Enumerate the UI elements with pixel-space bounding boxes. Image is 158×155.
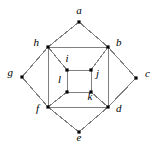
graph-edge — [48, 92, 67, 107]
graph-vertex-l — [65, 90, 68, 93]
graph-vertex-b — [106, 45, 109, 48]
graph-edge — [79, 107, 108, 132]
graph-vertex-f — [46, 105, 49, 108]
vertex-label-i: i — [65, 53, 68, 64]
vertex-label-g: g — [8, 67, 14, 78]
vertex-label-e: e — [77, 132, 82, 143]
vertex-label-f: f — [36, 103, 39, 114]
vertex-label-l: l — [58, 74, 61, 85]
graph-vertex-c — [134, 76, 137, 79]
graph-vertex-a — [77, 20, 80, 23]
vertex-label-a: a — [76, 5, 82, 16]
vertex-label-j: j — [96, 68, 99, 79]
graph-edge — [91, 92, 108, 107]
vertex-label-d: d — [116, 103, 122, 114]
vertex-label-c: c — [145, 68, 150, 79]
graph-vertex-j — [89, 68, 92, 71]
graph-edge — [91, 47, 108, 70]
graph-edge — [22, 47, 48, 77]
graph-vertex-i — [65, 68, 68, 71]
graph-edge — [48, 107, 79, 132]
graph-edge — [48, 22, 79, 47]
vertex-label-k: k — [88, 91, 93, 102]
vertex-label-h: h — [34, 37, 40, 48]
graph-edge — [108, 78, 136, 107]
graph-edge — [79, 22, 108, 47]
graph-figure: abcdefghijkl — [0, 0, 158, 155]
graph-vertex-h — [46, 45, 49, 48]
vertex-label-b: b — [116, 37, 122, 48]
graph-vertex-d — [106, 105, 109, 108]
graph-vertex-g — [20, 75, 23, 78]
graph-edge — [48, 47, 67, 70]
graph-edge — [108, 47, 136, 78]
